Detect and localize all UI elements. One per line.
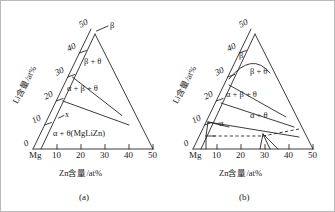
xtick-label-20-b: 20 [236,151,245,160]
x-corner-label-a: Mg [29,151,42,160]
x-marker [59,116,65,119]
xtick-label-30-b: 30 [260,151,269,160]
x-axis-title-a: Zn含量/at% [59,169,102,178]
phase-label-beta-b: β [239,51,243,60]
x-corner-label-b: Mg [189,151,202,160]
xtick-label-20-a: 20 [76,151,85,160]
panel-caption-b: (b) [239,193,250,202]
figure-container: Mg 10 20 30 40 50 0 10 20 30 40 50 Li含量/… [0,0,335,212]
phase-label-alpha-b: α [219,119,223,128]
phase-label-beta-theta-a: β + θ [84,57,101,66]
panel-b: Mg 10 20 30 40 50 0 10 20 30 40 50 Li含量/… [168,1,335,212]
xtick-label-10-a: 10 [52,151,61,160]
panel-a-plot [1,1,168,212]
panel-a: Mg 10 20 30 40 50 0 10 20 30 40 50 Li含量/… [1,1,168,212]
phase-label-beta-theta-b: β + θ [250,67,267,76]
xtick-label-40-b: 40 [284,151,293,160]
phase-label-alpha-theta-b: α + θ [250,111,268,120]
xtick-label-30-a: 30 [100,151,109,160]
phase-label-alpha-theta-a: α + θ(MgLiZn) [53,129,105,138]
right-hypotenuse-b [255,34,313,149]
phase-label-alpha-beta-theta-b: α + β + θ [226,90,257,99]
beta-pointer [97,26,109,31]
phase-label-alpha-beta-theta-a: α + β + θ [67,84,98,93]
panel-caption-a: (a) [79,193,89,202]
xtick-label-50-b: 50 [308,151,317,160]
xtick-label-50-a: 50 [148,151,157,160]
phase-label-beta-a: β [110,21,114,30]
xtick-label-10-b: 10 [212,151,221,160]
phase-label-x-a: x [65,111,69,119]
panel-b-plot [168,1,335,212]
x-axis-title-b: Zn含量/at% [219,169,262,178]
dashed-rise-b [263,129,299,136]
xtick-label-40-a: 40 [124,151,133,160]
